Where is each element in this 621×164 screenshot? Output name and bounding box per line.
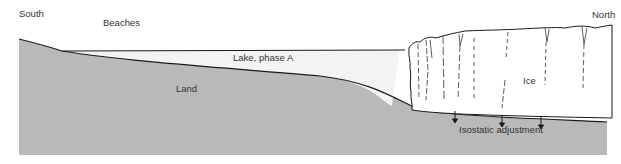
label-land: Land — [176, 83, 197, 94]
label-south: South — [19, 8, 44, 19]
label-isostatic-adjustment: Isostatic adjustment — [459, 124, 543, 135]
glacial-lake-diagram: South North Beaches Lake, phase A Land I… — [0, 0, 621, 164]
label-lake: Lake, phase A — [233, 52, 294, 63]
label-north: North — [592, 9, 615, 20]
ice-sheet — [409, 25, 612, 118]
label-ice: Ice — [523, 75, 536, 86]
label-beaches: Beaches — [103, 17, 140, 28]
